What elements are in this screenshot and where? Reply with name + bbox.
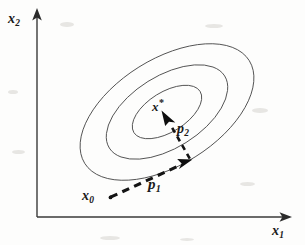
optimum-point-label: x* xyxy=(152,97,164,115)
diagram-canvas xyxy=(0,0,305,245)
contour-diagram: x2 x1 x* p2 p1 x0 xyxy=(0,0,305,245)
inner-contour xyxy=(123,74,210,149)
middle-contour xyxy=(90,45,243,178)
axes-group xyxy=(32,8,292,222)
p1-dashed-shaft xyxy=(111,165,182,198)
search-direction-1-label: p1 xyxy=(148,176,161,194)
y-axis-label: x2 xyxy=(8,11,20,28)
start-point-marker xyxy=(109,196,113,200)
contours-group xyxy=(57,16,278,209)
start-point-label: x0 xyxy=(82,188,94,205)
search-direction-2-label: p2 xyxy=(177,121,189,138)
outer-contour xyxy=(57,16,278,209)
x-axis-label: x1 xyxy=(272,223,284,240)
p1-arrowhead-icon xyxy=(177,159,192,169)
